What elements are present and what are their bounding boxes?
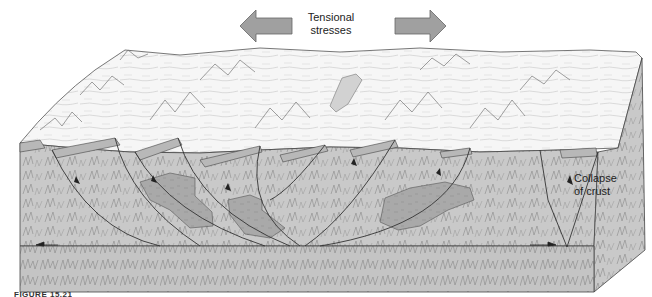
arrow-left-icon (240, 10, 292, 42)
label-line: stresses (298, 24, 364, 37)
tensional-stresses-label: Tensional stresses (298, 11, 364, 37)
label-line: Collapse (574, 172, 644, 185)
label-line: of crust (574, 185, 644, 198)
basement-layer (20, 246, 594, 292)
arrow-right-icon (395, 10, 446, 42)
rift-block-diagram (0, 0, 652, 297)
crust-front-face (20, 143, 598, 246)
label-line: Tensional (298, 11, 364, 24)
land-surface (20, 48, 642, 153)
figure-caption: FIGURE 15.21 (14, 288, 72, 297)
collapse-of-crust-label: Collapse of crust (574, 172, 644, 198)
